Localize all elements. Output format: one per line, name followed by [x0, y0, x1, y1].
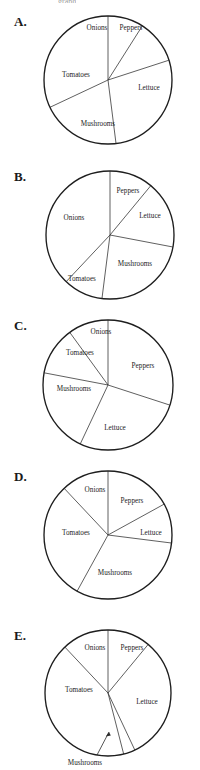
pie-chart-e: OnionsPeppersLettuceTomatoesMushrooms — [0, 0, 200, 770]
slice-label-tomatoes: Tomatoes — [65, 686, 93, 694]
slice-label-lettuce: Lettuce — [136, 698, 158, 706]
pie-chart-worksheet-page: graph A.OnionsPeppersLettuceMushroomsTom… — [0, 0, 200, 770]
slice-label-mushrooms: Mushrooms — [68, 759, 103, 767]
slice-label-peppers: Peppers — [121, 644, 144, 652]
slice-label-onions: Onions — [85, 644, 106, 652]
slice-divider — [108, 693, 124, 754]
slice-divider — [108, 693, 135, 750]
slice-divider — [108, 644, 148, 693]
